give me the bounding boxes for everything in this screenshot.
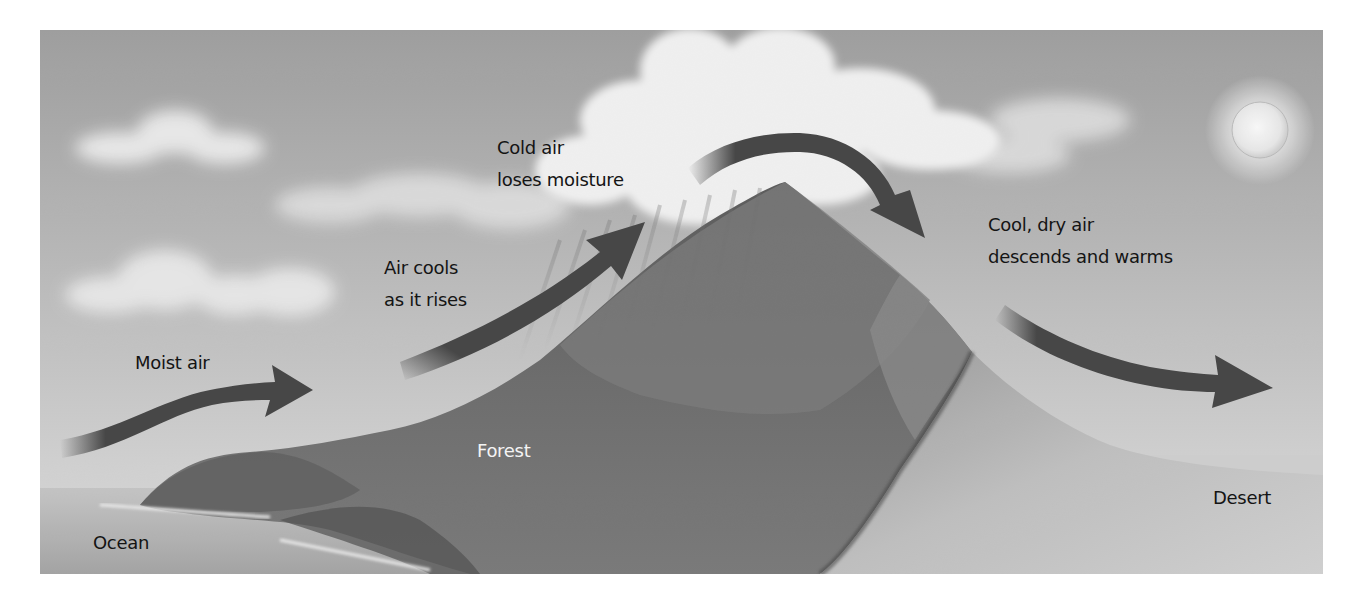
- label-cool-dry-air: Cool, dry air descends and warms: [988, 209, 1173, 273]
- diagram-canvas: [40, 30, 1323, 574]
- cool-dry-line-1: Cool, dry air: [988, 209, 1173, 241]
- desert-text: Desert: [1213, 482, 1271, 514]
- label-cold-air: Cold air loses moisture: [497, 132, 624, 196]
- rain-shadow-diagram: Moist air Air cools as it rises Cold air…: [40, 30, 1323, 574]
- air-cools-line-1: Air cools: [384, 252, 467, 284]
- ocean-text: Ocean: [93, 527, 149, 559]
- label-desert: Desert: [1213, 482, 1271, 514]
- label-forest: Forest: [477, 435, 530, 467]
- cold-air-line-2: loses moisture: [497, 164, 624, 196]
- cool-dry-line-2: descends and warms: [988, 241, 1173, 273]
- air-cools-line-2: as it rises: [384, 284, 467, 316]
- moist-air-text: Moist air: [135, 347, 209, 379]
- label-ocean: Ocean: [93, 527, 149, 559]
- label-air-cools: Air cools as it rises: [384, 252, 467, 316]
- forest-text: Forest: [477, 435, 530, 467]
- cold-air-line-1: Cold air: [497, 132, 624, 164]
- label-moist-air: Moist air: [135, 347, 209, 379]
